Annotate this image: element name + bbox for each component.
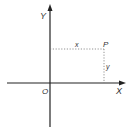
x-distance-label: x [74,41,79,48]
origin-label: O [42,87,48,96]
point-p-label: P [103,40,109,49]
x-axis-arrow-icon [119,81,126,86]
coordinate-diagram: Y X O P x y [0,0,133,132]
y-distance-label: y [105,63,110,71]
y-axis-arrow-icon [48,4,53,11]
y-axis-label: Y [40,11,47,21]
x-axis-label: X [115,86,123,96]
diagram-svg: Y X O P x y [0,0,133,132]
